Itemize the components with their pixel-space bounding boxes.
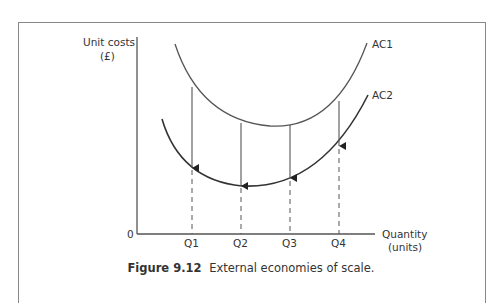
tick-q2: Q2	[233, 237, 248, 250]
ac1-label: AC1	[372, 38, 393, 51]
tick-q1: Q1	[184, 237, 199, 250]
figure-caption: Figure 9.12 External economies of scale.	[0, 261, 502, 275]
y-axis-label-line1: Unit costs	[83, 36, 135, 49]
x-axis-label-line2: (units)	[388, 241, 422, 254]
figure-number: Figure 9.12	[127, 261, 201, 275]
ac1-curve	[175, 43, 367, 126]
x-axis-label-line1: Quantity	[382, 228, 427, 241]
tick-q3: Q3	[282, 237, 297, 250]
ac2-label: AC2	[372, 89, 393, 102]
tick-q4: Q4	[331, 237, 346, 250]
origin-label: 0	[127, 228, 134, 241]
ac2-curve	[162, 95, 368, 186]
figure-title: External economies of scale.	[209, 261, 374, 275]
y-axis-label-line2: (£)	[100, 50, 115, 63]
